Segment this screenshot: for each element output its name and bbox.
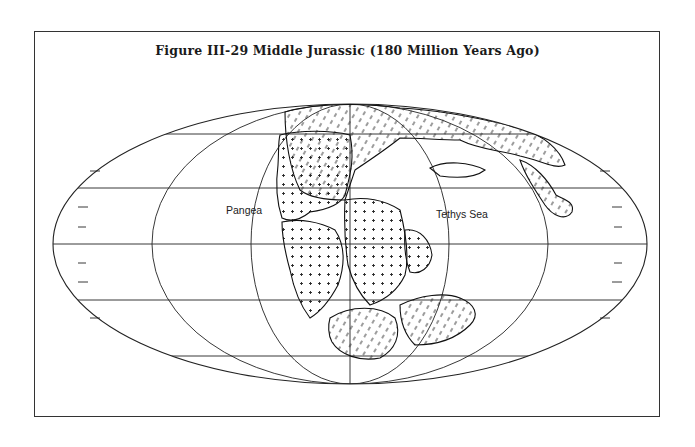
continents [277, 105, 573, 360]
antarctica [329, 308, 398, 359]
india [405, 230, 432, 273]
australia [400, 295, 475, 345]
paleogeographic-map: Pangea Tethys Sea [0, 0, 695, 447]
label-pangea: Pangea [226, 204, 262, 216]
cimmerian-block [430, 163, 485, 177]
north-america [277, 131, 352, 220]
south-america [282, 220, 343, 318]
africa [345, 198, 407, 305]
label-tethys-sea: Tethys Sea [436, 208, 488, 220]
